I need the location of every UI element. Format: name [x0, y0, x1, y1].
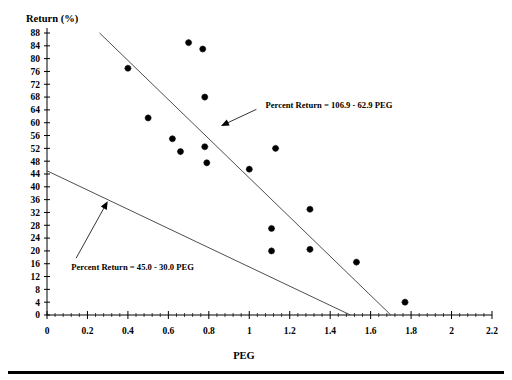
- y-tick-label: 72: [31, 80, 41, 90]
- x-tick-label: 1.2: [284, 326, 296, 336]
- y-tick-label: 28: [31, 221, 41, 231]
- x-axis-label: PEG: [233, 350, 255, 361]
- y-tick-label: 88: [31, 28, 41, 38]
- y-tick-label: 60: [31, 118, 41, 128]
- y-tick-label: 84: [31, 41, 41, 51]
- steep-line-annotation-text: Percent Return = 106.9 - 62.9 PEG: [265, 100, 392, 110]
- scatter-plot-figure: 0481216202428323640444852566064687276808…: [0, 0, 512, 380]
- shallow-line-annotation-text: Percent Return = 45.0 - 30.0 PEG: [71, 262, 194, 272]
- footer-divider: [8, 371, 504, 374]
- data-point-marker: [268, 225, 274, 231]
- data-point-marker: [353, 259, 359, 265]
- y-tick-label: 40: [31, 182, 41, 192]
- x-tick-label: 2: [449, 326, 454, 336]
- y-tick-label: 20: [31, 246, 41, 256]
- data-point-marker: [268, 248, 274, 254]
- y-tick-label: 56: [31, 131, 41, 141]
- data-point-marker: [204, 160, 210, 166]
- data-point-marker: [202, 144, 208, 150]
- y-tick-label: 80: [31, 54, 41, 64]
- data-point-marker: [125, 65, 131, 71]
- axes-group: [47, 28, 492, 315]
- annotations: Percent Return = 106.9 - 62.9 PEGPercent…: [71, 100, 392, 272]
- data-point-marker: [177, 148, 183, 154]
- shallow-fit-line: [47, 171, 350, 315]
- shallow-line-annotation-arrowhead: [101, 201, 108, 210]
- y-tick-label: 0: [35, 310, 40, 320]
- data-point-marker: [272, 145, 278, 151]
- shallow-line-annotation-leader: [76, 207, 104, 258]
- data-point-marker: [202, 94, 208, 100]
- x-tick-label: 0.8: [203, 326, 215, 336]
- y-tick-label: 4: [35, 298, 40, 308]
- x-tick-label: 1: [247, 326, 252, 336]
- y-tick-label: 44: [31, 169, 41, 179]
- x-tick-label: 1.6: [365, 326, 377, 336]
- x-tick-label: 0.4: [122, 326, 134, 336]
- y-tick-label: 68: [31, 92, 41, 102]
- y-tick-label: 52: [31, 144, 41, 154]
- chart-canvas: 0481216202428323640444852566064687276808…: [0, 0, 512, 380]
- y-tick-label: 76: [31, 67, 41, 77]
- y-tick-label: 8: [35, 285, 40, 295]
- data-point-marker: [402, 299, 408, 305]
- data-point-marker: [185, 40, 191, 46]
- data-point-marker: [169, 136, 175, 142]
- y-tick-label: 36: [31, 195, 41, 205]
- y-tick-label: 64: [31, 105, 41, 115]
- y-tick-label: 48: [31, 157, 41, 167]
- data-point-marker: [307, 206, 313, 212]
- y-tick-label: 24: [31, 233, 41, 243]
- x-tick-label: 1.4: [324, 326, 336, 336]
- regression-lines: [47, 33, 391, 315]
- steep-fit-line: [100, 33, 391, 315]
- x-tick-label: 0: [45, 326, 50, 336]
- y-axis-label: Return (%): [26, 13, 79, 25]
- y-tick-label: 16: [31, 259, 41, 269]
- data-point-marker: [307, 246, 313, 252]
- x-tick-label: 1.8: [405, 326, 417, 336]
- x-tick-label: 2.2: [486, 326, 498, 336]
- x-tick-label: 0.2: [82, 326, 94, 336]
- x-tick-label: 0.6: [162, 326, 174, 336]
- data-point-marker: [200, 46, 206, 52]
- y-tick-label: 32: [31, 208, 41, 218]
- data-point-marker: [246, 166, 252, 172]
- steep-line-annotation-leader: [227, 109, 256, 123]
- y-tick-label: 12: [31, 272, 41, 282]
- data-point-marker: [145, 115, 151, 121]
